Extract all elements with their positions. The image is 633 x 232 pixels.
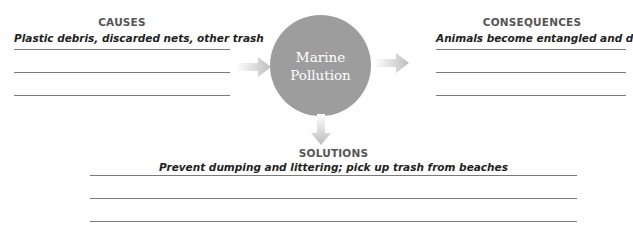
consequences-heading: CONSEQUENCES	[436, 16, 628, 28]
center-label-line1: Marine	[296, 48, 345, 66]
causes-answer: Plastic debris, discarded nets, other tr…	[14, 32, 230, 44]
consequences-line-1	[436, 49, 626, 50]
arrow-down-icon	[310, 114, 332, 146]
solutions-line-2	[90, 198, 577, 199]
consequences-line-3	[436, 95, 626, 96]
marine-pollution-circle: Marine Pollution	[270, 15, 371, 116]
causes-line-1	[14, 49, 230, 50]
arrow-right-icon	[236, 56, 272, 78]
solutions-heading: SOLUTIONS	[90, 147, 577, 159]
center-label-line2: Pollution	[290, 66, 351, 84]
consequences-answer: Animals become entangled and die	[436, 32, 628, 44]
arrow-right-icon	[374, 52, 410, 74]
causes-line-2	[14, 72, 230, 73]
causes-heading: CAUSES	[14, 16, 230, 28]
solutions-line-3	[90, 221, 577, 222]
consequences-line-2	[436, 72, 626, 73]
solutions-line-1	[90, 175, 577, 176]
causes-line-3	[14, 95, 230, 96]
solutions-answer: Prevent dumping and littering; pick up t…	[90, 161, 577, 173]
clipped-top-text	[220, 0, 340, 3]
